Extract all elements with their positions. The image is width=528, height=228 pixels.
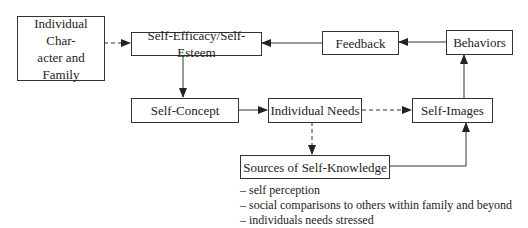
node-individual-character: Individual Char- acter and Family — [17, 16, 105, 81]
sources-list-item: – self perception — [240, 183, 512, 198]
node-individual-character-line2: acter and Family — [18, 49, 104, 83]
sources-list-item: – individuals needs stressed — [240, 213, 512, 228]
node-behaviors: Behaviors — [446, 30, 513, 55]
sources-list-item: – social comparisons to others within fa… — [240, 198, 512, 213]
node-feedback: Feedback — [322, 31, 399, 55]
node-self-concept: Self-Concept — [131, 98, 239, 123]
node-individual-needs: Individual Needs — [268, 98, 362, 123]
node-self-images: Self-Images — [412, 98, 493, 123]
node-self-efficacy: Self-Efficacy/Self-Esteem — [131, 32, 262, 56]
edge-sources-to-images — [389, 123, 466, 166]
node-sources: Sources of Self-Knowledge — [240, 155, 390, 179]
sources-list: – self perception – social comparisons t… — [240, 183, 512, 228]
node-individual-character-line1: Individual Char- — [18, 15, 104, 49]
